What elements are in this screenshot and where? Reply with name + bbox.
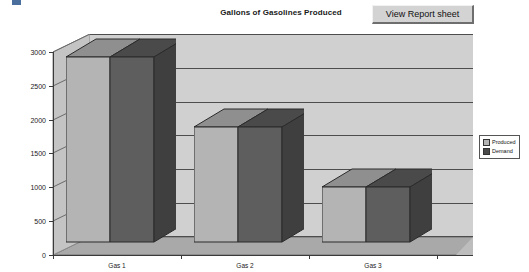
legend-swatch-produced-icon [483,139,490,146]
axis-label-1500: 1500 [30,150,46,157]
axis-label-3000: 3000 [30,49,46,56]
bar-group-gas-3[interactable] [322,34,432,260]
legend-label-demand: Demand [492,148,513,155]
legend-swatch-demand-icon [483,148,490,155]
axis-tick-500: 500 [49,221,54,222]
axis-tick-1500: 1500 [49,153,54,154]
category-axis-line [53,255,473,256]
category-label-gas-1: Gas 1 [108,262,125,269]
chart-title: Gallons of Gasolines Produced [196,8,366,17]
category-label-gas-3: Gas 3 [364,262,381,269]
category-tick-start [53,255,54,259]
view-report-sheet-button[interactable]: View Report sheet [372,5,474,24]
axis-tick-2500: 2500 [49,86,54,87]
category-tick-2 [309,255,310,259]
axis-label-2000: 2000 [30,117,46,124]
category-tick-1 [181,255,182,259]
axis-label-500: 500 [34,218,46,225]
legend-item-demand[interactable]: Demand [483,148,516,155]
axis-tick-2000: 2000 [49,120,54,121]
axis-label-0: 0 [42,252,46,259]
axis-label-2500: 2500 [30,83,46,90]
chart-legend: Produced Demand [479,135,520,159]
legend-label-produced: Produced [492,139,516,146]
window-accent-fragment [12,0,21,5]
axis-tick-3000: 3000 [49,52,54,53]
bar-group-gas-1[interactable] [66,34,176,260]
axis-label-1000: 1000 [30,184,46,191]
chart-plot-area: 3000 2500 2000 1500 1000 500 0 [36,34,473,256]
category-label-gas-2: Gas 2 [236,262,253,269]
legend-item-produced[interactable]: Produced [483,139,516,146]
axis-tick-1000: 1000 [49,187,54,188]
category-tick-3 [437,255,438,259]
bar-group-gas-2[interactable] [194,34,304,260]
